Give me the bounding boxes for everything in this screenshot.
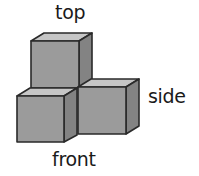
side-cube-side-face [126, 79, 139, 134]
top-cube-front-face [31, 41, 79, 88]
side-cube-front-face [78, 87, 126, 134]
top-cube [31, 33, 92, 88]
label-front: front [52, 150, 96, 169]
label-side: side [148, 87, 186, 106]
side-cube [78, 79, 139, 134]
label-top: top [55, 3, 85, 22]
front-cube [17, 88, 77, 142]
front-cube-side-face [64, 88, 77, 142]
front-cube-front-face [17, 96, 64, 142]
